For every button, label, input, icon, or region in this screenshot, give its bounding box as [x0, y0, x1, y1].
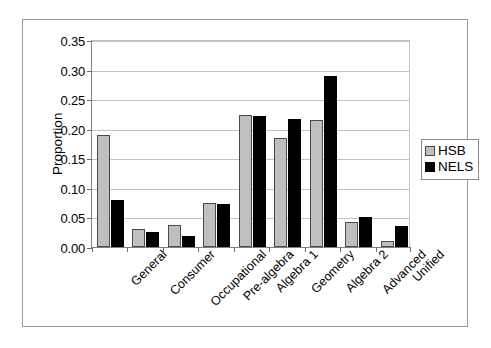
legend-item-hsb[interactable]: HSB — [425, 143, 473, 159]
black-swatch-icon — [425, 162, 435, 172]
bar-hsb — [203, 203, 216, 247]
y-tick-label: 0.10 — [60, 182, 85, 195]
legend-label: NELS — [438, 160, 473, 174]
bar-hsb — [132, 229, 145, 247]
x-axis-label: Consumer — [168, 248, 218, 298]
bar-group — [340, 41, 375, 247]
bar-nels — [217, 204, 230, 247]
y-tick-label: 0.20 — [60, 123, 85, 136]
bar-group — [234, 41, 269, 247]
bar-nels — [146, 232, 159, 247]
y-tick-label: 0.00 — [60, 242, 85, 255]
bar-group — [92, 41, 127, 247]
bar-group — [163, 41, 198, 247]
y-tick-label: 0.05 — [60, 212, 85, 225]
y-tick-label: 0.25 — [60, 94, 85, 107]
bar-hsb — [168, 225, 181, 247]
x-axis-label: General — [129, 248, 169, 288]
chart-legend: HSBNELS — [421, 139, 479, 180]
bar-nels — [324, 76, 337, 248]
y-tick-label: 0.35 — [60, 35, 85, 48]
bar-hsb — [381, 241, 394, 247]
bar-group — [305, 41, 340, 247]
bar-hsb — [345, 222, 358, 247]
bar-nels — [359, 217, 372, 247]
bar-group — [376, 41, 411, 247]
bar-nels — [111, 200, 124, 247]
bar-group — [127, 41, 162, 247]
bar-nels — [253, 116, 266, 247]
plot-area: 0.000.050.100.150.200.250.300.35 — [91, 40, 410, 247]
bar-nels — [182, 236, 195, 247]
gray-swatch-icon — [425, 146, 435, 156]
y-tick-label: 0.15 — [60, 153, 85, 166]
bar-hsb — [239, 115, 252, 247]
legend-item-nels[interactable]: NELS — [425, 159, 473, 175]
bar-hsb — [310, 120, 323, 247]
bar-group — [269, 41, 304, 247]
bar-hsb — [274, 138, 287, 247]
chart-figure: Proportion 0.000.050.100.150.200.250.300… — [22, 19, 468, 327]
bar-nels — [395, 226, 408, 247]
x-axis-labels: GeneralConsumerOccupationalPre-algebraAl… — [91, 248, 421, 326]
legend-label: HSB — [438, 144, 466, 158]
bar-group — [198, 41, 233, 247]
bar-nels — [288, 119, 301, 247]
bar-hsb — [97, 135, 110, 247]
y-tick-label: 0.30 — [60, 64, 85, 77]
